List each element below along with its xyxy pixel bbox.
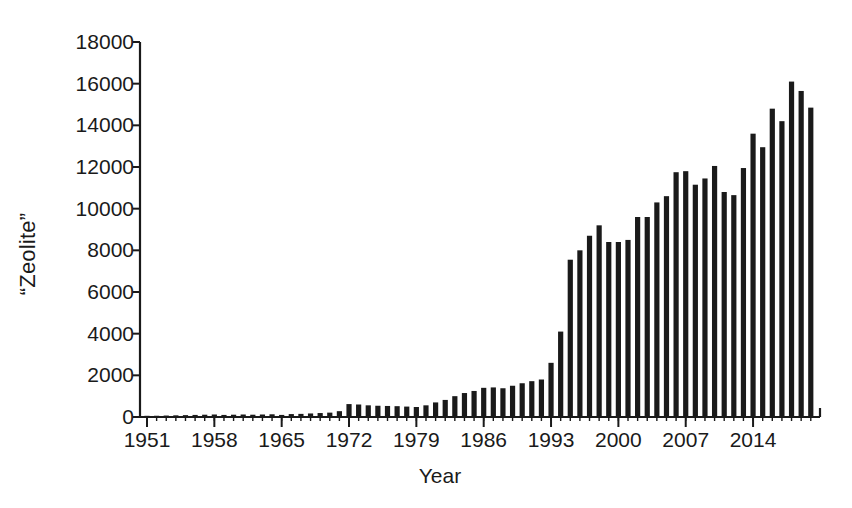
- bar: [520, 383, 525, 417]
- bar: [539, 380, 544, 418]
- bar: [481, 388, 486, 417]
- bar: [808, 108, 813, 417]
- bar: [577, 250, 582, 417]
- bar: [702, 178, 707, 417]
- bar: [356, 405, 361, 418]
- bar: [529, 381, 534, 417]
- axis-ticks-group: [133, 42, 811, 427]
- bar: [423, 405, 428, 417]
- bar: [491, 387, 496, 417]
- bar: [385, 406, 390, 417]
- bar: [346, 404, 351, 417]
- bar: [741, 168, 746, 417]
- bar: [548, 363, 553, 417]
- bar: [616, 242, 621, 417]
- bar: [375, 406, 380, 417]
- bar: [789, 82, 794, 417]
- bar: [731, 195, 736, 417]
- bar: [597, 225, 602, 417]
- bar: [414, 407, 419, 417]
- bar: [770, 109, 775, 417]
- bar: [395, 406, 400, 417]
- bar: [760, 147, 765, 417]
- bar: [587, 236, 592, 417]
- bars-group: [144, 82, 813, 417]
- bar: [654, 202, 659, 417]
- bar: [558, 332, 563, 417]
- bar: [500, 388, 505, 417]
- bar: [462, 393, 467, 417]
- bar: [674, 172, 679, 417]
- bar: [443, 400, 448, 417]
- axes-group: [140, 42, 820, 417]
- bar: [366, 405, 371, 417]
- bar: [471, 391, 476, 417]
- bar: [635, 217, 640, 417]
- bar: [404, 407, 409, 417]
- bar: [779, 121, 784, 417]
- bar: [722, 192, 727, 417]
- bar: [568, 260, 573, 417]
- bar: [510, 386, 515, 417]
- bar: [683, 171, 688, 417]
- bar: [452, 396, 457, 417]
- bar: [799, 91, 804, 417]
- bar: [645, 217, 650, 417]
- bar: [606, 242, 611, 417]
- bar: [433, 402, 438, 417]
- plot-area: [0, 0, 852, 508]
- bar: [712, 166, 717, 417]
- bar: [625, 240, 630, 417]
- bar: [750, 134, 755, 417]
- zeolite-publications-bar-chart: “Zeolite” 020004000600080001000012000140…: [0, 0, 852, 508]
- bar: [693, 185, 698, 417]
- bar: [664, 196, 669, 417]
